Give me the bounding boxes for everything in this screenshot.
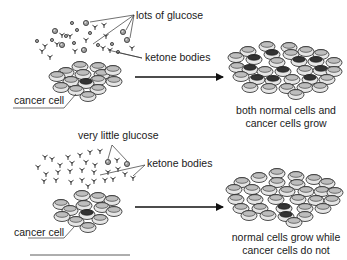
label-lots-of-glucose: lots of glucose [136, 9, 203, 21]
glucose-pointer-lines [108, 145, 127, 161]
label-cancer-cell: cancer cell [14, 226, 64, 238]
ketone-pointer-lines [108, 50, 142, 58]
label-ketone-bodies: ketone bodies [145, 51, 210, 63]
panel-low-glucose: very little glucose ketone bodies cancer… [14, 129, 343, 256]
caption-result-1-line-2: cancer cells grow [245, 117, 327, 129]
label-ketone-bodies: ketone bodies [147, 157, 212, 169]
label-cancer-cell: cancer cell [14, 94, 64, 106]
panel-high-glucose: lots of glucose ketone bodies cancer cel… [13, 9, 342, 129]
glucose-and-ketone-particles [36, 150, 135, 189]
glucose-and-ketone-particles [35, 20, 134, 59]
result-cell-cluster [228, 42, 342, 100]
result-cell-cluster [226, 169, 343, 228]
diagram-canvas: lots of glucose ketone bodies cancer cel… [0, 0, 347, 260]
label-very-little-glucose: very little glucose [78, 129, 159, 141]
ketone-pointer-lines [100, 165, 145, 176]
caption-result-2-line-1: normal cells grow while [232, 231, 341, 243]
caption-result-2-line-2: cancer cells do not [242, 244, 330, 256]
caption-result-1-line-1: both normal cells and [236, 104, 336, 116]
